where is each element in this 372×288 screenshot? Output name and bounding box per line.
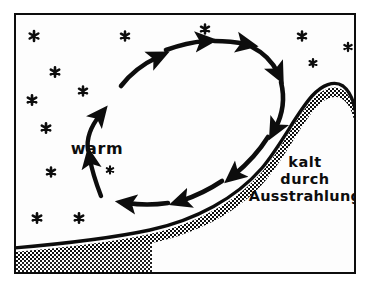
label-cold-line-2: durch [280,171,329,187]
weather-diagram-figure: warm kalt durch Ausstrahlung [0,0,372,288]
label-cold-line-3: Ausstrahlung [249,188,362,204]
diagram-canvas: warm kalt durch Ausstrahlung [0,0,372,288]
label-warm: warm [71,139,124,158]
label-cold-line-1: kalt [288,154,321,170]
diagram-interior [15,14,355,273]
circulation-arrow-bottom-left [127,203,168,205]
